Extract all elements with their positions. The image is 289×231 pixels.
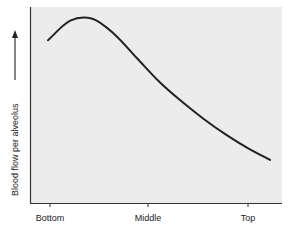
plot-area: [30, 7, 282, 203]
y-axis-label: Blood flow per alveolus: [10, 103, 20, 196]
x-tick-label-middle: Middle: [135, 213, 162, 223]
y-axis-arrow-icon: [12, 30, 18, 80]
x-tick-label-bottom: Bottom: [36, 213, 65, 223]
x-tick-label-top: Top: [241, 213, 256, 223]
chart: Bottom Middle Top Blood flow per alveolu…: [0, 0, 289, 231]
